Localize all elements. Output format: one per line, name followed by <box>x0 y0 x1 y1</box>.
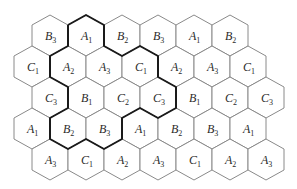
hex-cells: B3A1B2B3A1B2C1A2A3C1A2A3C1C3B1C2C3B1C2C3… <box>14 15 284 180</box>
hex-cell-diagram: B3A1B2B3A1B2C1A2A3C1A2A3C1C3B1C2C3B1C2C3… <box>0 0 297 189</box>
